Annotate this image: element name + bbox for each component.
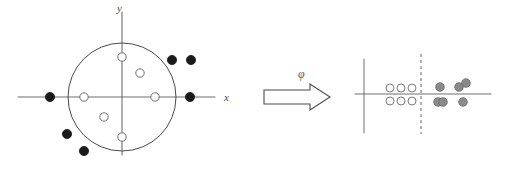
panel-feature-space [355, 54, 491, 134]
y-axis-label: y [116, 2, 122, 14]
x-axis-label: x [223, 91, 229, 103]
mapping-arrow-group: φ [264, 67, 330, 110]
figure-canvas: x y φ [0, 0, 510, 176]
data-point-open-circle [386, 97, 394, 105]
data-point-filled-gray-circle [436, 83, 445, 92]
panel-input-space: x y [18, 2, 229, 156]
data-point-filled-circle [45, 92, 54, 101]
outer-class-points-feature [434, 79, 471, 107]
data-point-open-circle [408, 97, 416, 105]
data-point-filled-gray-circle [459, 98, 468, 107]
data-point-filled-circle [62, 129, 71, 138]
data-point-filled-circle [79, 146, 88, 155]
data-point-open-circle [118, 133, 126, 141]
data-point-filled-circle [185, 92, 194, 101]
data-point-filled-gray-circle [439, 98, 448, 107]
feature-map-figure: x y φ [0, 0, 510, 176]
phi-map-label: φ [298, 67, 305, 81]
mapping-arrow-icon [264, 84, 330, 110]
data-point-open-circle [118, 53, 126, 61]
data-point-filled-circle [186, 55, 195, 64]
data-point-filled-circle [167, 55, 176, 64]
data-point-open-circle [100, 113, 108, 121]
data-point-open-circle [397, 84, 405, 92]
data-point-filled-gray-circle [462, 79, 471, 88]
data-point-open-circle [408, 84, 416, 92]
data-point-open-circle [136, 69, 144, 77]
data-point-open-circle [151, 93, 159, 101]
data-point-open-circle [386, 84, 394, 92]
data-point-open-circle [80, 93, 88, 101]
data-point-open-circle [397, 97, 405, 105]
